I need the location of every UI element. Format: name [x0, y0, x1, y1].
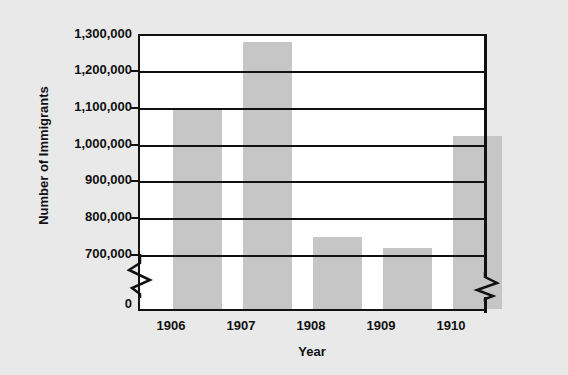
bar-1908 — [313, 237, 362, 309]
plot-right-border — [484, 34, 487, 277]
y-tick-mark — [131, 70, 138, 72]
x-tick-label-1909: 1909 — [346, 318, 416, 333]
y-tick-label: 700,000 — [42, 246, 132, 261]
y-tick-label: 1,000,000 — [42, 136, 132, 151]
y-tick-mark — [131, 180, 138, 182]
y-axis-break-icon — [126, 253, 154, 299]
bar-1906 — [173, 110, 222, 309]
x-tick-label-1910: 1910 — [416, 318, 486, 333]
gridline-900000 — [140, 181, 486, 183]
y-tick-label: 800,000 — [42, 209, 132, 224]
x-tick-label-1907: 1907 — [206, 318, 276, 333]
bar-chart-figure: Number of Immigrants 1,300,000 1,200,000… — [0, 0, 568, 375]
gridline-700000 — [140, 255, 486, 257]
y-tick-label: 1,100,000 — [42, 99, 132, 114]
y-tick-mark — [131, 144, 138, 146]
y-tick-label: 0 — [42, 296, 132, 311]
y-tick-label: 1,300,000 — [42, 26, 132, 41]
bar-1907 — [243, 42, 292, 309]
x-tick-label-1906: 1906 — [136, 318, 206, 333]
y-tick-mark — [131, 107, 138, 109]
plot-area — [138, 34, 486, 311]
y-tick-mark — [131, 217, 138, 219]
y-tick-label: 900,000 — [42, 172, 132, 187]
gridline-800000 — [140, 218, 486, 220]
right-axis-break-icon — [473, 272, 501, 302]
y-axis-tick-labels: 1,300,000 1,200,000 1,100,000 1,000,000 … — [40, 0, 132, 375]
y-tick-label: 1,200,000 — [42, 62, 132, 77]
x-tick-label-1908: 1908 — [276, 318, 346, 333]
gridline-1200000 — [140, 71, 486, 73]
gridline-1100000 — [140, 108, 486, 110]
gridline-1000000 — [140, 145, 486, 147]
x-axis-title: Year — [138, 344, 486, 359]
